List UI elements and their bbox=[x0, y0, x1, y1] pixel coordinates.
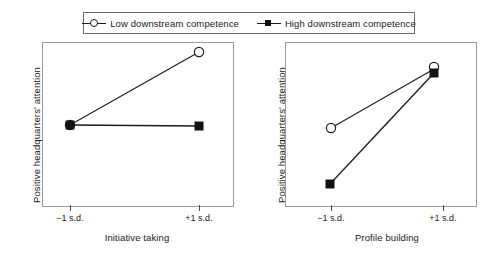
data-point-high-plus1sd bbox=[195, 122, 204, 131]
tick-mark-left-plus1sd bbox=[199, 205, 200, 211]
data-point-low-plus1sd bbox=[194, 47, 203, 56]
x-axis-label-right: Profile building bbox=[312, 232, 462, 243]
data-point-low-minus1sd bbox=[326, 123, 335, 132]
tick-mark-right-minus1sd bbox=[331, 205, 332, 211]
tick-label-left-minus1sd: −1 s.d. bbox=[45, 213, 95, 223]
chart-figure: Low downstream competence High downstrea… bbox=[0, 0, 495, 254]
tick-label-right-plus1sd: +1 s.d. bbox=[418, 213, 468, 223]
x-axis-label-left: Initiative taking bbox=[62, 232, 212, 243]
panel-profile-building: Positive headquarters' attention −1 s.d.… bbox=[245, 0, 495, 254]
tick-mark-left-minus1sd bbox=[70, 205, 71, 211]
tick-label-left-plus1sd: +1 s.d. bbox=[174, 213, 224, 223]
data-point-high-plus1sd bbox=[430, 69, 439, 78]
panel-initiative-taking: Positive headquarters' attention −1 s.d.… bbox=[0, 0, 250, 254]
data-point-high-minus1sd bbox=[326, 180, 335, 189]
tick-label-right-minus1sd: −1 s.d. bbox=[306, 213, 356, 223]
tick-mark-right-plus1sd bbox=[443, 205, 444, 211]
